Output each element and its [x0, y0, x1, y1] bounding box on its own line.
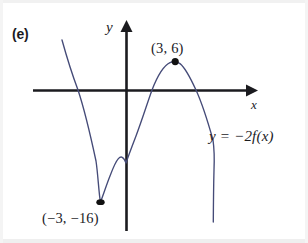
equation-label: y = −2f(x) — [209, 129, 274, 144]
x-axis-label: x — [251, 98, 257, 111]
min-point-label: (−3, −16) — [42, 211, 99, 226]
x-axis-arrowhead — [246, 85, 258, 97]
min-point-marker — [96, 199, 104, 205]
panel-letter: (e) — [12, 27, 29, 41]
y-axis-label: y — [106, 20, 113, 35]
max-point-marker — [172, 58, 179, 65]
cubic-curve — [62, 40, 214, 222]
y-axis-arrowhead — [121, 20, 133, 32]
max-point-label: (3, 6) — [151, 41, 184, 56]
graph-canvas — [0, 0, 308, 243]
figure-container: (e) y x (3, 6) (−3, −16) y = −2f(x) — [0, 0, 308, 243]
